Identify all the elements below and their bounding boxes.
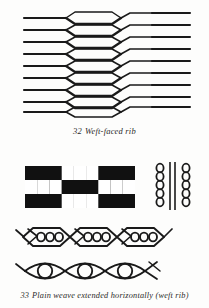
tail-stroke (145, 271, 157, 279)
lens-unit (117, 228, 164, 246)
figure-33-weave-draft (0, 158, 209, 216)
weft-row (24, 49, 190, 60)
warp-circle (78, 264, 92, 278)
warp-circle (55, 233, 63, 242)
grid-cell-empty (37, 180, 49, 194)
figure-33-interlacement-lower (0, 252, 209, 290)
bead (156, 189, 163, 198)
bead (156, 181, 163, 190)
warp-circle (131, 233, 139, 242)
grid-cell-empty (98, 180, 110, 194)
warp-circle (38, 264, 52, 278)
figure-32-caption-text: Weft-faced rib (85, 126, 136, 136)
weave-draft-grid-and-beads (0, 158, 209, 216)
grid-cell-empty (49, 180, 61, 194)
lens-chain-single-circle (0, 252, 209, 290)
grid-cell-empty (25, 180, 37, 194)
lens-unit (23, 228, 70, 246)
grid-cell-empty (123, 180, 135, 194)
warp-circle (102, 233, 110, 242)
bead (156, 164, 163, 173)
bead-columns (156, 162, 189, 210)
weft-row (24, 61, 190, 72)
grid-cell-empty (62, 194, 74, 208)
warp-circle (140, 233, 148, 242)
warp-circle (84, 233, 92, 242)
grid-cell-empty (74, 166, 86, 180)
bead (182, 172, 189, 181)
weft-row (24, 73, 190, 84)
figure-plate: 32Weft-faced rib (0, 0, 209, 308)
grid-cell-empty (74, 194, 86, 208)
figure-33-caption-text: Plain weave extended horizontally (weft … (32, 291, 189, 300)
figure-32-caption: 32Weft-faced rib (0, 126, 209, 136)
figure-33-interlacement-upper (0, 216, 209, 256)
bead (182, 198, 189, 207)
grid-cell-empty (86, 194, 98, 208)
warp-circle (46, 233, 54, 242)
bead (182, 164, 189, 173)
weft-row (24, 12, 190, 24)
weft-row (24, 25, 190, 36)
figure-33-number: 33 (20, 291, 29, 300)
bead-column-right (182, 164, 189, 207)
figure-32-weft-faced-rib (0, 8, 209, 120)
lens-unit (25, 264, 65, 279)
lens-unit (105, 264, 145, 279)
draft-grid (25, 166, 135, 208)
weft-row (24, 37, 190, 48)
bead (182, 189, 189, 198)
tail-stroke (164, 229, 172, 237)
tail-stroke (16, 264, 25, 271)
bead (156, 172, 163, 181)
weft-row (24, 85, 190, 96)
warp-circle (37, 233, 45, 242)
warp-circle (93, 233, 101, 242)
lens-unit (65, 264, 105, 279)
lens-chain-three-circles (0, 216, 209, 256)
warp-circle (118, 264, 132, 278)
weft-faced-rib-drawing (0, 8, 209, 120)
figure-32-number: 32 (73, 126, 82, 136)
bead (182, 181, 189, 190)
lens-unit (70, 228, 117, 246)
bead (156, 198, 163, 207)
grid-cell-empty (111, 180, 123, 194)
bead-column-left (156, 164, 163, 207)
grid-cell-empty (62, 166, 74, 180)
figure-33-caption: 33Plain weave extended horizontally (wef… (0, 291, 209, 300)
grid-cell-empty (86, 166, 98, 180)
warp-circle (149, 233, 157, 242)
